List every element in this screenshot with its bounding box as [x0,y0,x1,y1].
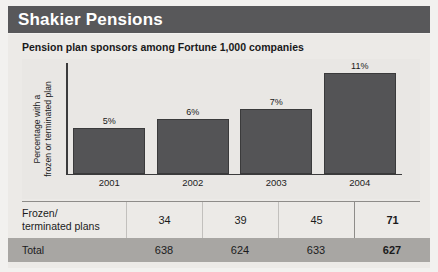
x-tick-2004: 2004 [318,177,402,188]
cell-frozen-2002: 39 [202,202,278,238]
bar-value-label: 5% [68,116,152,126]
row-label-frozen: Frozen/ terminated plans [8,207,126,233]
bar-value-label: 7% [235,97,319,107]
cell-total-2001: 638 [126,244,202,256]
chart-subtitle: Pension plan sponsors among Fortune 1,00… [22,41,304,53]
bar-slot: 5% [68,64,152,174]
bar-slot: 7% [235,64,319,174]
y-axis-label: Percentage with a frozen or terminated p… [32,67,58,191]
x-tick-2003: 2003 [235,177,319,188]
bar-series: 5% 6% 7% 11% [68,64,402,174]
cell-frozen-2001: 34 [126,202,202,238]
row-label-line-1: Frozen/ [22,207,126,220]
bar-slot: 11% [318,64,402,174]
bar-2001 [73,128,145,174]
table-row-frozen: Frozen/ terminated plans 34 39 45 71 [8,202,430,238]
bar-2004 [324,73,396,174]
x-tick-2002: 2002 [151,177,235,188]
cell-total-2004: 627 [354,244,430,256]
bar-2003 [240,109,312,173]
title-band: Shakier Pensions [8,6,430,33]
cell-total-2002: 624 [202,244,278,256]
chart-plot-area: Percentage with a frozen or terminated p… [22,59,420,199]
cell-frozen-2003: 45 [278,202,354,238]
y-axis-label-line-1: Percentage with a [32,67,43,191]
x-tick-2001: 2001 [68,177,152,188]
table-bottom-strip [8,262,430,268]
page-title: Shakier Pensions [18,10,163,30]
x-axis-line [66,174,402,176]
bar-value-label: 11% [318,61,402,71]
chart-figure: Shakier Pensions Pension plan sponsors a… [0,0,438,272]
x-axis-tick-labels: 2001 2002 2003 2004 [68,177,402,188]
y-axis-label-line-2: frozen or terminated plan [43,67,54,191]
cell-frozen-2004: 71 [354,202,430,238]
row-label-line-2: terminated plans [22,220,126,233]
plot: 5% 6% 7% 11% [66,63,402,175]
row-label-total: Total [8,244,126,257]
bar-value-label: 6% [151,107,235,117]
bar-slot: 6% [151,64,235,174]
table-row-total: Total 638 624 633 627 [8,238,430,262]
bar-2002 [157,119,229,174]
chart-panel: Pension plan sponsors among Fortune 1,00… [8,34,430,266]
cell-total-2003: 633 [278,244,354,256]
